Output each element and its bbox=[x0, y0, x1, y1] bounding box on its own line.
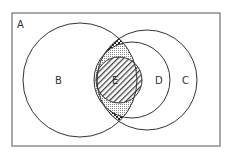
label-c: C bbox=[182, 75, 189, 86]
venn-diagram: A B E D C bbox=[0, 0, 232, 155]
label-a: A bbox=[17, 19, 24, 30]
label-e: E bbox=[112, 75, 118, 86]
label-d: D bbox=[155, 75, 163, 86]
label-b: B bbox=[55, 75, 62, 86]
